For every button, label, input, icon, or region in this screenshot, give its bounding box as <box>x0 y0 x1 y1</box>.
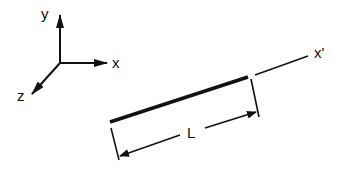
z-axis-arrow <box>32 63 60 94</box>
dimension-tick-right <box>251 79 259 117</box>
member: x' <box>110 44 325 122</box>
local-x-axis-line <box>255 56 308 75</box>
z-axis-label: z <box>17 87 25 104</box>
dimension-arrow-right <box>205 112 256 128</box>
dimension-tick-left <box>111 128 119 160</box>
length-dimension: L <box>111 79 259 160</box>
length-label: L <box>187 124 195 141</box>
dimension-arrow-left <box>120 135 180 156</box>
global-axes: y x z <box>17 5 120 104</box>
member-line <box>110 77 248 122</box>
x-axis-label: x <box>112 54 120 71</box>
diagram-canvas: y x z x' L <box>0 0 341 173</box>
y-axis-label: y <box>41 5 49 22</box>
local-x-axis-label: x' <box>314 44 325 61</box>
